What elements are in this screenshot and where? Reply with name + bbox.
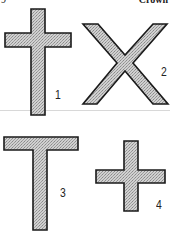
figure-label-4: 4 <box>156 197 162 212</box>
crosses-diagram <box>0 0 170 235</box>
greek-cross-shape <box>96 141 165 211</box>
saltire-cross-shape <box>83 24 168 104</box>
figure-label-3: 3 <box>60 185 66 200</box>
figure-label-2: 2 <box>161 64 167 79</box>
latin-cross-shape <box>5 9 71 115</box>
figure-label-1: 1 <box>55 87 61 102</box>
tau-cross-shape <box>4 137 78 230</box>
